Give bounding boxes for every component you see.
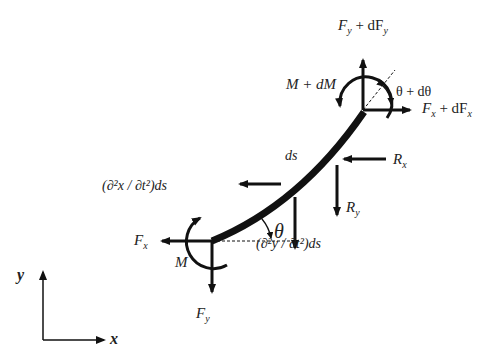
- label-theta: θ: [274, 220, 284, 242]
- label-m-dm: M + dM: [285, 76, 338, 92]
- label-ry: Ry: [345, 199, 360, 218]
- label-fx: Fx: [133, 232, 148, 251]
- beam-element: [212, 112, 364, 241]
- label-axis-x: x: [109, 330, 118, 347]
- label-fx-dfx: Fx + dFx: [421, 100, 472, 119]
- label-accel-y: (∂²y / ∂t²)ds: [256, 236, 322, 252]
- label-fy-dfy: Fy + dFy: [337, 17, 388, 36]
- label-accel-x: (∂²x / ∂t²)ds: [102, 178, 168, 194]
- moment-dm-arrow: [340, 77, 392, 118]
- label-fy: Fy: [195, 305, 210, 324]
- label-axis-y: y: [15, 266, 25, 284]
- moment-arrow: [186, 218, 227, 269]
- label-m: M: [174, 254, 189, 270]
- beam-free-body-diagram: Fy + dFy M + dM θ + dθ Fx + dFx ds Rx Ry…: [0, 0, 485, 357]
- label-ds: ds: [285, 148, 298, 163]
- label-rx: Rx: [392, 151, 407, 170]
- coordinate-axes: [43, 272, 104, 340]
- label-theta-dtheta: θ + dθ: [396, 84, 432, 99]
